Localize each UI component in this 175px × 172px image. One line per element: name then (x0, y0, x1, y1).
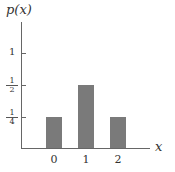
x-axis (21, 148, 150, 149)
bar-x1 (78, 85, 94, 148)
x-tick-label-2: 2 (110, 153, 126, 166)
x-tick-label-0: 0 (46, 153, 62, 166)
y-tick-label-1: 1 (9, 46, 15, 57)
x-axis-label: x (155, 139, 162, 154)
y-axis-label: p(x) (6, 2, 32, 17)
x-tick-label-1: 1 (78, 153, 94, 166)
bar-x2 (110, 117, 126, 148)
bar-x0 (46, 117, 62, 148)
y-tick-1 (21, 53, 26, 54)
y-tick-quarter (21, 117, 26, 118)
y-tick-half (21, 85, 26, 86)
y-tick-label-quarter: 1 4 (6, 109, 18, 126)
y-tick-label-half: 1 2 (6, 77, 18, 94)
